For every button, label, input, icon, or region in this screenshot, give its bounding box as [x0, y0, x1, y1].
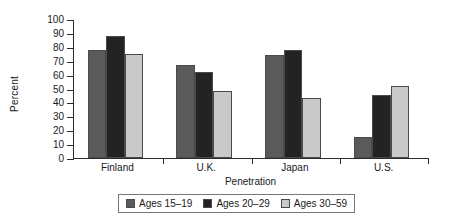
y-tick-label: 30	[53, 110, 64, 123]
y-tick-mark: 50	[67, 90, 74, 91]
bar	[284, 50, 303, 158]
y-tick-label: 20	[53, 124, 64, 137]
y-axis-title-text: Percent	[9, 54, 20, 134]
plot-area: 1009080706050403020100	[73, 20, 428, 159]
y-tick-mark: 80	[67, 48, 74, 49]
bar	[195, 72, 214, 158]
legend-swatch-icon	[281, 199, 290, 208]
y-tick-mark: 0	[67, 159, 74, 160]
bar	[354, 137, 373, 158]
y-tick-label: 40	[53, 96, 64, 109]
bar	[125, 54, 144, 158]
x-axis-title-text: Penetration	[225, 176, 276, 187]
category-label-finland: Finland	[73, 162, 162, 173]
legend-label: Ages 15–19	[139, 198, 192, 209]
legend-label: Ages 30–59	[294, 198, 347, 209]
bar	[265, 55, 284, 158]
legend-item[interactable]: Ages 15–19	[126, 198, 192, 209]
y-tick-mark: 100	[67, 20, 74, 21]
category-label-japan: Japan	[251, 162, 340, 173]
category-label-u-s: U.S.	[339, 162, 428, 173]
y-tick-label: 90	[53, 27, 64, 40]
bar	[88, 50, 107, 158]
bar	[106, 36, 125, 158]
y-tick-label: 60	[53, 69, 64, 82]
y-tick-mark: 10	[67, 145, 74, 146]
y-tick-mark: 90	[67, 34, 74, 35]
chart-legend: Ages 15–19Ages 20–29Ages 30–59	[118, 194, 355, 213]
y-tick-label: 0	[58, 152, 64, 165]
category-label-u-k: U.K.	[162, 162, 251, 173]
bar-chart-figure: Percent 1009080706050403020100 FinlandU.…	[0, 0, 453, 222]
y-tick-label: 100	[47, 13, 64, 26]
bar	[302, 98, 321, 158]
legend-swatch-icon	[203, 199, 212, 208]
legend-label: Ages 20–29	[216, 198, 269, 209]
x-tick-mark	[428, 158, 429, 164]
y-tick-label: 80	[53, 41, 64, 54]
bar	[372, 95, 391, 158]
bar	[391, 86, 410, 158]
y-tick-label: 10	[53, 138, 64, 151]
y-tick-mark: 20	[67, 131, 74, 132]
y-tick-mark: 40	[67, 103, 74, 104]
bar	[213, 91, 232, 158]
y-tick-mark: 70	[67, 62, 74, 63]
legend-item[interactable]: Ages 30–59	[281, 198, 347, 209]
bars-layer	[74, 20, 428, 158]
y-tick-mark: 30	[67, 117, 74, 118]
y-tick-mark: 60	[67, 76, 74, 77]
legend-item[interactable]: Ages 20–29	[203, 198, 269, 209]
legend-swatch-icon	[126, 199, 135, 208]
x-axis-title: Penetration	[73, 176, 428, 187]
y-tick-label: 70	[53, 55, 64, 68]
y-tick-label: 50	[53, 83, 64, 96]
y-axis-title: Percent	[9, 0, 20, 54]
bar	[176, 65, 195, 158]
